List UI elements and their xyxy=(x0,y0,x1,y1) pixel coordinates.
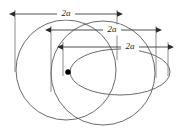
focus-point-dot xyxy=(65,69,70,74)
outer-circle xyxy=(16,20,116,120)
dimension-label-outer: 2a xyxy=(62,8,72,18)
curve-group xyxy=(16,20,170,125)
dimension-middle: 2a xyxy=(51,24,156,92)
figure-canvas: 2a 2a 2a xyxy=(0,0,179,130)
dimension-label-inner: 2a xyxy=(126,41,136,51)
geometry-figure: 2a 2a 2a xyxy=(0,0,179,130)
dimension-outer: 2a xyxy=(15,8,117,72)
dimension-label-middle: 2a xyxy=(108,24,118,34)
